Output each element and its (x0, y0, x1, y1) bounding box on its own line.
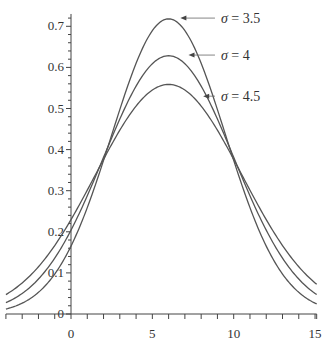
normal-distribution-chart: 00.10.20.30.40.50.60.7 051015 σ = 3.5σ =… (0, 0, 332, 354)
x-tick-label: 15 (309, 326, 322, 341)
y-tick-label: 0.5 (48, 101, 64, 116)
x-axis: 051015 (6, 314, 322, 341)
y-tick-label: 0.4 (48, 142, 65, 157)
x-tick-label: 5 (149, 326, 156, 341)
x-tick-label: 0 (68, 326, 75, 341)
legend-label: σ = 4 (221, 48, 250, 63)
x-tick-label: 10 (227, 326, 240, 341)
y-axis: 00.10.20.30.40.50.60.7 (48, 14, 71, 321)
y-tick-label: 0.2 (48, 224, 64, 239)
arrowhead-icon (180, 16, 186, 21)
arrowhead-icon (189, 53, 195, 58)
y-tick-label: 0.6 (48, 59, 65, 74)
legend-annotations: σ = 3.5σ = 4σ = 4.5 (180, 11, 260, 104)
legend-label: σ = 3.5 (221, 11, 260, 26)
y-tick-label: 0.7 (48, 18, 65, 33)
legend-label: σ = 4.5 (221, 89, 260, 104)
y-tick-label: 0.3 (48, 183, 64, 198)
